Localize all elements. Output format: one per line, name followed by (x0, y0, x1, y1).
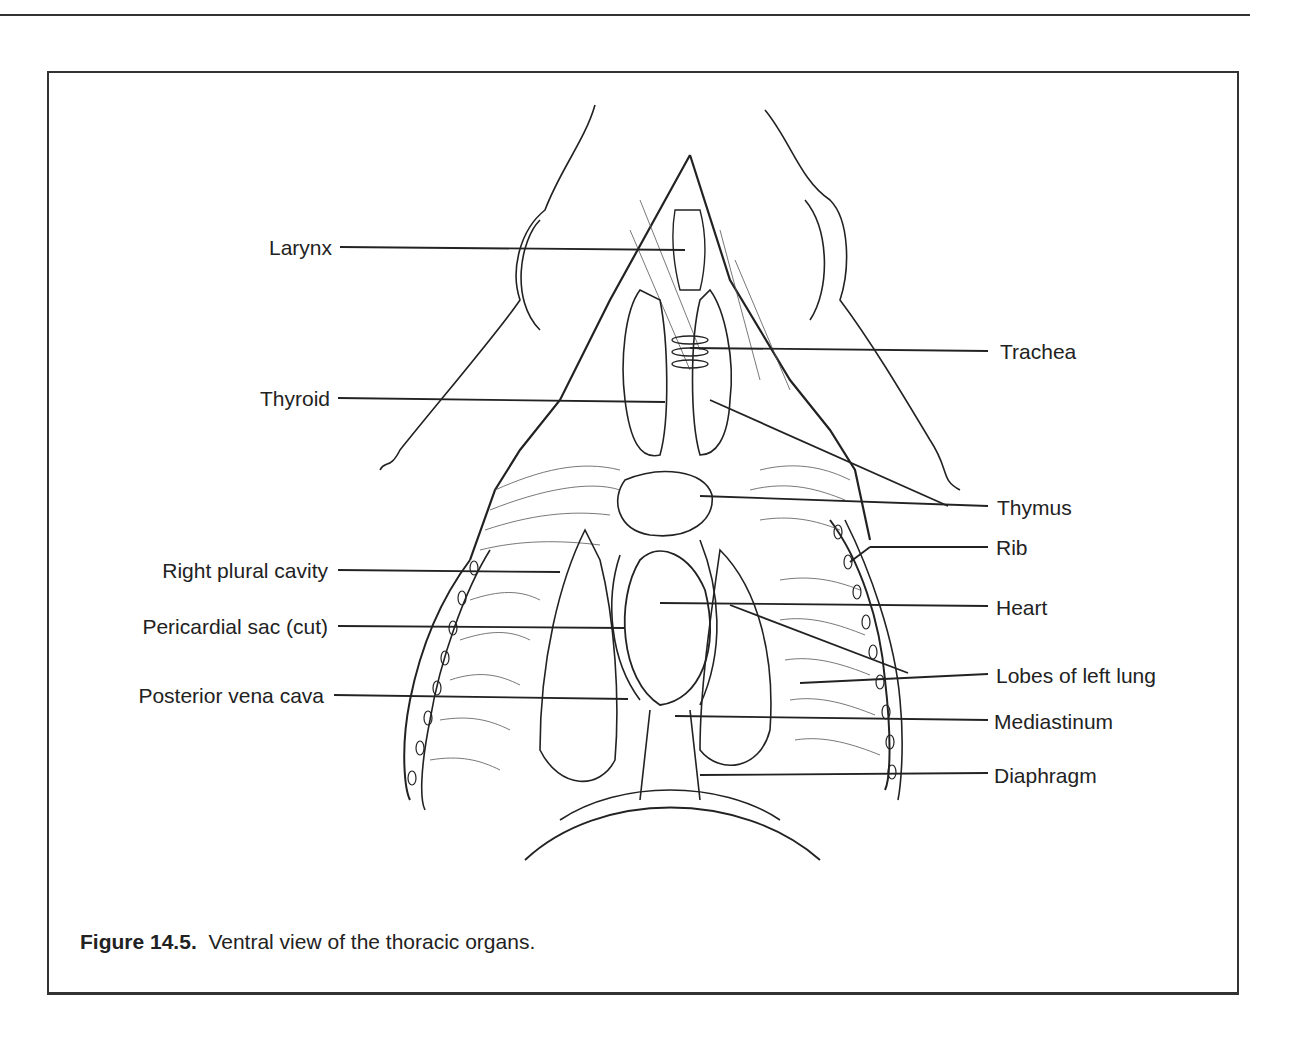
label-lobes-left-lung: Lobes of left lung (996, 665, 1156, 686)
figure-caption: Figure 14.5. Ventral view of the thoraci… (80, 930, 535, 954)
label-diaphragm: Diaphragm (994, 765, 1097, 786)
figure-number: Figure 14.5. (80, 930, 197, 953)
label-thyroid: Thyroid (180, 388, 330, 409)
label-rib: Rib (996, 537, 1028, 558)
label-larynx: Larynx (180, 237, 332, 258)
label-thymus: Thymus (997, 497, 1072, 518)
label-posterior-vena-cava: Posterior vena cava (100, 685, 324, 706)
label-pericardial-sac: Pericardial sac (cut) (100, 616, 328, 637)
label-heart: Heart (996, 597, 1047, 618)
label-mediastinum: Mediastinum (994, 711, 1113, 732)
label-right-plural-cavity: Right plural cavity (100, 560, 328, 581)
leader-lines (0, 0, 1299, 1041)
figure-caption-text: Ventral view of the thoracic organs. (208, 930, 535, 953)
label-trachea: Trachea (1000, 341, 1076, 362)
